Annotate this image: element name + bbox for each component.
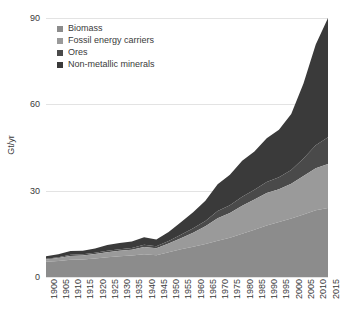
x-tick-1910: 1910	[74, 279, 83, 299]
x-axis-tick-labels: 1900190519101915192019251930193519401945…	[46, 279, 328, 323]
legend-swatch-icon	[57, 62, 63, 68]
legend-item-biomass[interactable]: Biomass	[57, 24, 155, 33]
x-tick-1990: 1990	[270, 279, 279, 299]
x-tick-1965: 1965	[209, 279, 218, 299]
x-tick-2015: 2015	[332, 279, 341, 299]
x-tick-2005: 2005	[307, 279, 316, 299]
x-tick-1970: 1970	[221, 279, 230, 299]
legend-swatch-icon	[57, 26, 63, 32]
x-tick-1915: 1915	[86, 279, 95, 299]
x-tick-1930: 1930	[123, 279, 132, 299]
x-tick-1980: 1980	[246, 279, 255, 299]
x-tick-1935: 1935	[135, 279, 144, 299]
x-tick-1955: 1955	[184, 279, 193, 299]
x-tick-1950: 1950	[172, 279, 181, 299]
x-tick-1975: 1975	[233, 279, 242, 299]
x-tick-1960: 1960	[197, 279, 206, 299]
legend: BiomassFossil energy carriersOresNon-met…	[57, 24, 155, 69]
x-tick-2000: 2000	[295, 279, 304, 299]
x-tick-2010: 2010	[319, 279, 328, 299]
x-tick-1940: 1940	[148, 279, 157, 299]
legend-item-label: Biomass	[68, 24, 103, 33]
y-tick-0: 0	[35, 273, 40, 282]
legend-swatch-icon	[57, 50, 63, 56]
x-tick-1995: 1995	[282, 279, 291, 299]
legend-item-non-metallic-minerals[interactable]: Non-metallic minerals	[57, 60, 155, 69]
y-tick-60: 60	[30, 100, 40, 109]
legend-item-label: Ores	[68, 48, 88, 57]
x-tick-1905: 1905	[62, 279, 71, 299]
y-tick-90: 90	[30, 14, 40, 23]
gridline-0	[46, 277, 328, 278]
x-tick-1900: 1900	[50, 279, 59, 299]
x-tick-1920: 1920	[99, 279, 108, 299]
x-tick-1925: 1925	[111, 279, 120, 299]
legend-item-ores[interactable]: Ores	[57, 48, 155, 57]
legend-item-fossil-energy-carriers[interactable]: Fossil energy carriers	[57, 36, 155, 45]
legend-item-label: Fossil energy carriers	[68, 36, 154, 45]
x-tick-1945: 1945	[160, 279, 169, 299]
y-axis-title: Gt/yr	[6, 122, 16, 168]
stacked-area-chart: 0306090 Gt/yr BiomassFossil energy carri…	[0, 0, 346, 323]
legend-item-label: Non-metallic minerals	[68, 60, 155, 69]
y-axis-tick-labels: 0306090	[14, 0, 40, 323]
legend-swatch-icon	[57, 38, 63, 44]
y-tick-30: 30	[30, 186, 40, 195]
x-tick-1985: 1985	[258, 279, 267, 299]
